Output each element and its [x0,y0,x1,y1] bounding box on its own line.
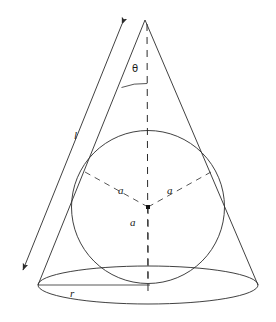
sphere-center-dot [146,205,150,209]
cone-sphere-diagram: l a a a r θ [0,0,276,322]
radius-upper-left-dashed [85,172,148,207]
sphere-radius-label-upper-left: a [118,185,124,196]
sphere-radius-label-down: a [130,217,136,228]
half-apex-angle-label: θ [132,64,138,74]
angle-arc [122,83,148,87]
right-cone-edge [145,20,258,285]
slant-height-double-arrow [23,24,122,270]
radius-upper-right-dashed [148,172,211,207]
slant-height-label: l [74,130,77,141]
sphere-radius-label-upper-right: a [167,185,173,196]
cone-figure-svg [0,0,276,322]
left-cone-edge [38,20,145,285]
base-radius-label: r [70,288,74,299]
